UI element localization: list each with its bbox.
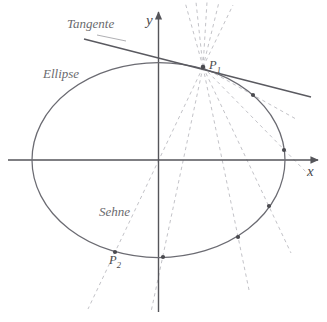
ray-up-2: [196, 2, 203, 67]
tangente-leader-line: [97, 35, 126, 41]
ellipse-figure: [0, 0, 327, 322]
label-point-p2: P2: [109, 253, 121, 270]
point-p1: [201, 65, 206, 70]
axis-label-x: x: [307, 163, 314, 180]
point-q1: [251, 93, 255, 97]
axis-label-y: y: [146, 12, 153, 29]
point-q4: [236, 235, 240, 239]
label-sehne: Sehne: [99, 204, 130, 220]
label-tangente: Tangente: [67, 16, 114, 32]
diagram-canvas: Tangente Ellipse Sehne y x P1 P2: [0, 0, 327, 322]
point-q5: [161, 255, 165, 259]
label-point-p1-letter: P: [209, 58, 217, 72]
chord-sehne-p2: [88, 67, 203, 309]
label-point-p2-letter: P: [109, 253, 117, 267]
point-q2: [282, 148, 286, 152]
label-point-p2-index: 2: [117, 260, 121, 270]
point-q3: [267, 204, 271, 208]
label-point-p1-index: 1: [217, 65, 221, 75]
label-ellipse: Ellipse: [43, 66, 79, 82]
chord-3: [203, 67, 249, 290]
marked-points-group: [113, 65, 286, 259]
ray-up-1: [185, 2, 203, 67]
label-point-p1: P1: [209, 58, 221, 75]
